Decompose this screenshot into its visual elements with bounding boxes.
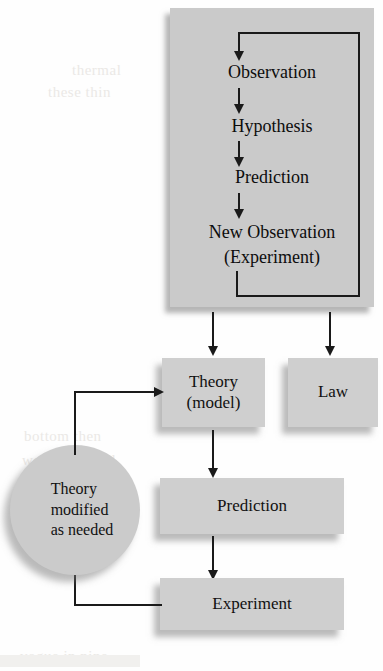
panel-step-prediction: Prediction xyxy=(170,167,374,188)
arrow-panel-to-theory-line xyxy=(212,312,214,348)
ghost-text-line-2: these thin xyxy=(48,84,111,101)
panel-step-new-observation-experiment: (Experiment) xyxy=(170,247,374,268)
arrow-theory-to-prediction-line xyxy=(212,430,214,470)
box-prediction: Prediction xyxy=(160,478,344,534)
ghost-text-line-1: thermal xyxy=(72,62,121,79)
box-law-label: Law xyxy=(318,382,348,402)
box-theory-label-model: (model) xyxy=(187,393,241,413)
loop-bottom-horizontal xyxy=(236,295,360,297)
box-theory: Theory (model) xyxy=(162,358,265,427)
circle-label-line-1: Theory xyxy=(51,479,114,500)
loop-left-vertical-lower xyxy=(236,271,238,297)
circle-label-line-2: modified xyxy=(51,500,114,521)
ghost-text-line-5: vogue in nine xyxy=(20,648,108,665)
ghost-bar-bottom-left xyxy=(0,655,140,667)
arrow-prediction-to-experiment-line xyxy=(212,536,214,574)
loop-top-horizontal xyxy=(238,32,360,34)
arrow-hypothesis-to-prediction-head xyxy=(234,157,244,167)
loop-right-vertical xyxy=(358,32,360,297)
feedback-circle-to-theory-head xyxy=(154,387,164,397)
box-prediction-label: Prediction xyxy=(217,496,287,516)
box-law: Law xyxy=(288,358,378,427)
arrow-theory-to-prediction-head xyxy=(208,468,218,478)
feedback-experiment-horizontal xyxy=(74,604,162,606)
arrow-prediction-to-new-observation-head xyxy=(234,209,244,219)
arrow-panel-to-law-head xyxy=(325,346,335,356)
arrow-panel-to-theory-head xyxy=(208,346,218,356)
ghost-text-line-3: bottom then xyxy=(24,428,102,445)
panel-step-new-observation: New Observation xyxy=(170,222,374,243)
box-experiment-label: Experiment xyxy=(212,594,291,614)
feedback-circle-to-theory-vertical xyxy=(74,391,76,455)
circle-theory-modified: Theory modified as needed xyxy=(10,445,140,575)
box-experiment: Experiment xyxy=(160,578,344,630)
feedback-circle-to-theory-horizontal xyxy=(74,391,156,393)
box-theory-label: Theory xyxy=(187,372,241,392)
arrow-panel-to-law-line xyxy=(329,312,331,348)
circle-label-line-3: as needed xyxy=(51,520,114,541)
arrow-observation-to-hypothesis-head xyxy=(234,104,244,114)
loop-into-observation-head xyxy=(234,51,244,61)
panel-step-observation: Observation xyxy=(170,62,374,83)
figure-canvas: thermal these thin bottom then would be … xyxy=(0,0,383,671)
panel-step-hypothesis: Hypothesis xyxy=(170,116,374,137)
